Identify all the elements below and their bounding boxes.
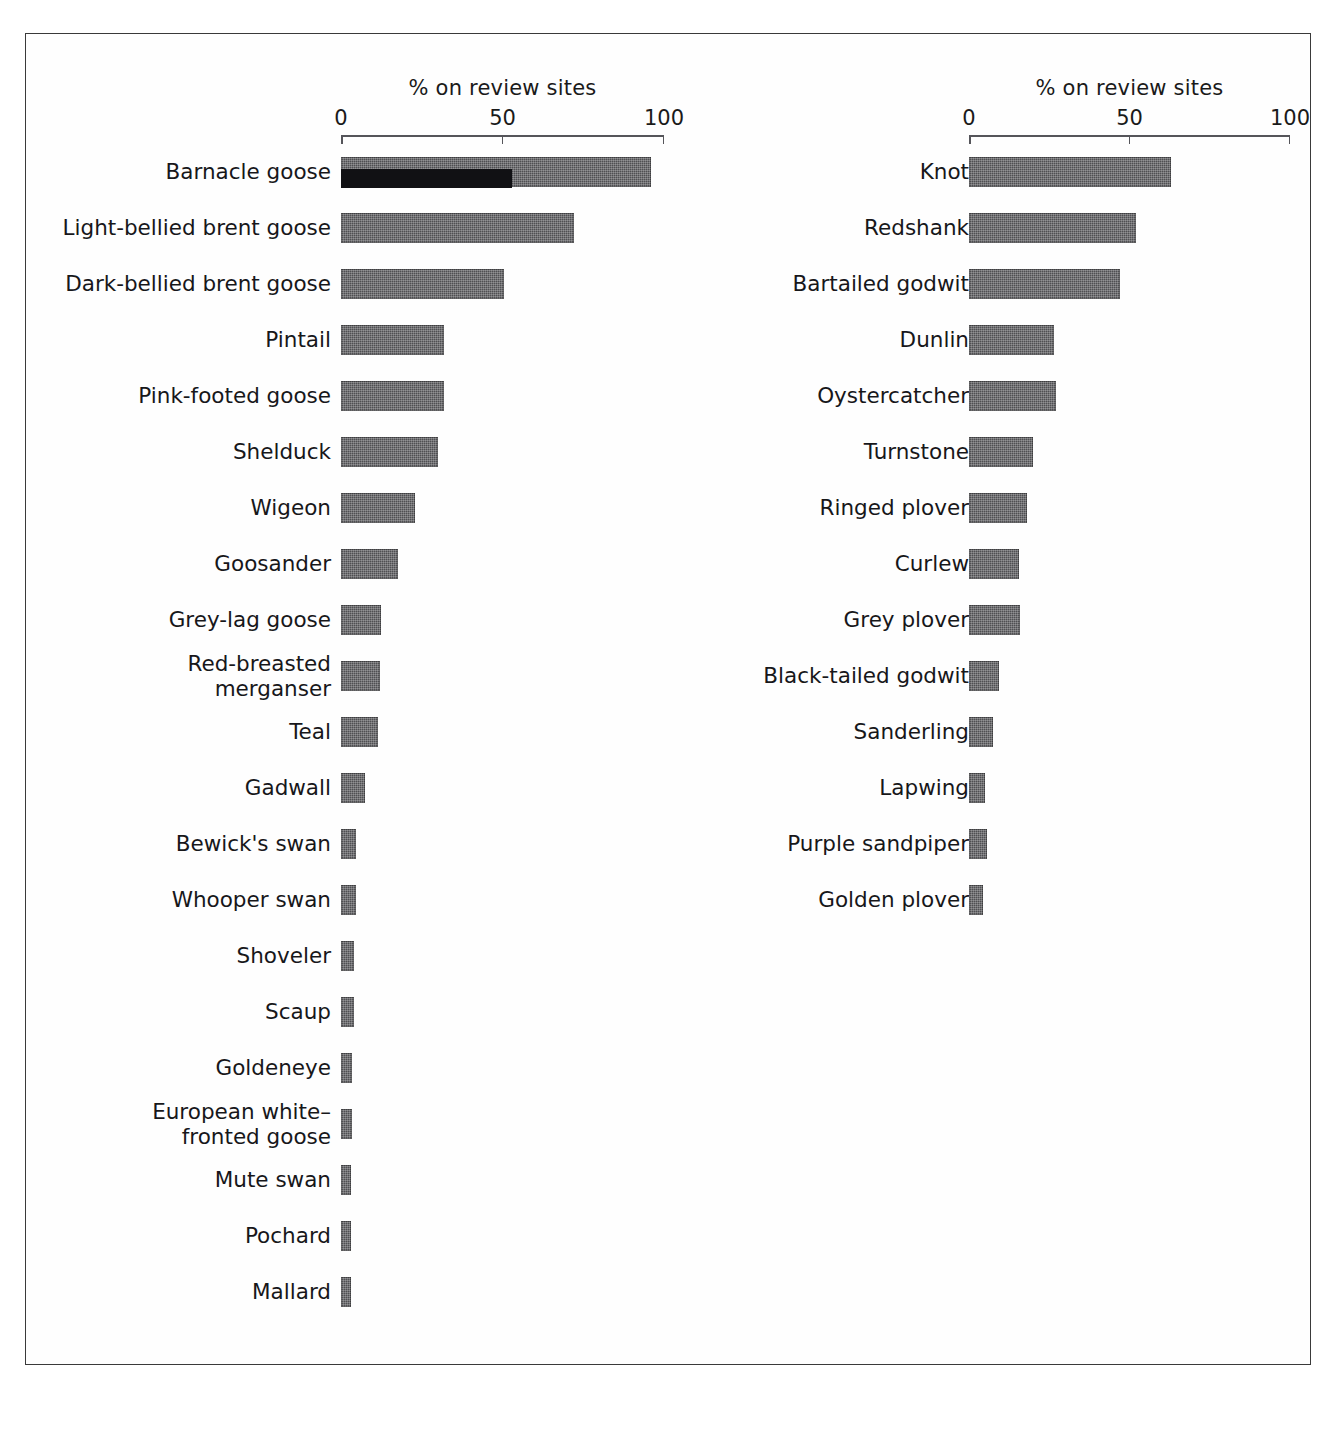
bar-track xyxy=(341,717,664,747)
bar-row: Pink-footed goose xyxy=(26,368,686,424)
chart-panel-wildfowl: % on review sites 050100 Barnacle gooseL… xyxy=(26,34,686,1364)
bar-row: Light-bellied brent goose xyxy=(26,200,686,256)
bar-track xyxy=(341,1165,664,1195)
bar-row: Redshank xyxy=(686,200,1312,256)
axis-tick-label: 100 xyxy=(1270,106,1310,130)
bar-category-label: Pintail xyxy=(56,327,331,352)
bar xyxy=(341,773,365,803)
bar-category-label: Wigeon xyxy=(56,495,331,520)
bar-category-label: Bartailed godwit xyxy=(696,271,969,296)
bar xyxy=(969,437,1033,467)
axis-tick-50-right xyxy=(1129,135,1131,144)
bar-category-label: Grey plover xyxy=(696,607,969,632)
bar-track xyxy=(969,661,1290,691)
bar-track xyxy=(341,1053,664,1083)
chart-page-frame: % on review sites 050100 Barnacle gooseL… xyxy=(25,33,1311,1365)
axis-header-left: % on review sites 050100 xyxy=(341,34,664,144)
bar-category-label: Purple sandpiper xyxy=(696,831,969,856)
bar-track xyxy=(969,605,1290,635)
bar-category-label: Black-tailed godwit xyxy=(696,663,969,688)
bar-category-label: Shelduck xyxy=(56,439,331,464)
bar-track xyxy=(341,1221,664,1251)
bar-row: Barnacle goose xyxy=(26,144,686,200)
bar xyxy=(341,885,356,915)
bar-category-label: Oystercatcher xyxy=(696,383,969,408)
bar xyxy=(341,213,574,243)
bar-row: Goldeneye xyxy=(26,1040,686,1096)
bar-row: Bewick's swan xyxy=(26,816,686,872)
bar-row: Knot xyxy=(686,144,1312,200)
bar-track xyxy=(969,493,1290,523)
bar-row: Pintail xyxy=(26,312,686,368)
axis-tick-label: 50 xyxy=(1116,106,1143,130)
bar-row: Mallard xyxy=(26,1264,686,1320)
bar-category-label: Goosander xyxy=(56,551,331,576)
bar-row: Red-breasted merganser xyxy=(26,648,686,704)
axis-tick-0-left xyxy=(341,135,343,144)
bar-category-label: Turnstone xyxy=(696,439,969,464)
bar xyxy=(341,1109,352,1139)
bar-rows-right: KnotRedshankBartailed godwitDunlinOyster… xyxy=(686,144,1312,928)
bar-row: European white– fronted goose xyxy=(26,1096,686,1152)
axis-tick-0-right xyxy=(969,135,971,144)
bar xyxy=(341,1221,351,1251)
bar-track xyxy=(969,717,1290,747)
bar-row: Whooper swan xyxy=(26,872,686,928)
bar xyxy=(341,941,354,971)
bar-row: Lapwing xyxy=(686,760,1312,816)
bar xyxy=(341,325,444,355)
bar-track xyxy=(341,997,664,1027)
bar-category-label: Gadwall xyxy=(56,775,331,800)
bar-track xyxy=(969,829,1290,859)
bar xyxy=(341,549,398,579)
bar xyxy=(969,269,1120,299)
bar-category-label: Mallard xyxy=(56,1279,331,1304)
bar-category-label: Dunlin xyxy=(696,327,969,352)
bar-category-label: Pink-footed goose xyxy=(56,383,331,408)
bar-rows-left: Barnacle gooseLight-bellied brent gooseD… xyxy=(26,144,686,1320)
bar xyxy=(341,1165,351,1195)
bar-row: Golden plover xyxy=(686,872,1312,928)
axis-tick-label: 0 xyxy=(962,106,975,130)
bar-category-label: Barnacle goose xyxy=(56,159,331,184)
axis-tick-label: 0 xyxy=(334,106,347,130)
axis-tick-50-left xyxy=(502,135,504,144)
bar-row: Teal xyxy=(26,704,686,760)
bar xyxy=(969,773,985,803)
bar-category-label: Whooper swan xyxy=(56,887,331,912)
bar-track xyxy=(341,381,664,411)
bar-track xyxy=(969,157,1290,187)
bar-category-label: Knot xyxy=(696,159,969,184)
bar xyxy=(341,661,380,691)
bar-overprint xyxy=(341,169,512,188)
bar-row: Pochard xyxy=(26,1208,686,1264)
bar xyxy=(341,381,444,411)
bar xyxy=(969,829,987,859)
bar-category-label: Bewick's swan xyxy=(56,831,331,856)
bar xyxy=(969,493,1027,523)
bar-row: Grey plover xyxy=(686,592,1312,648)
axis-tick-labels-right: 050100 xyxy=(969,106,1290,130)
bar-category-label: Sanderling xyxy=(696,719,969,744)
bar xyxy=(341,997,354,1027)
bar-category-label: Mute swan xyxy=(56,1167,331,1192)
bar-track xyxy=(969,549,1290,579)
bar xyxy=(341,1277,351,1307)
bar-track xyxy=(341,829,664,859)
bar-track xyxy=(341,213,664,243)
bar-row: Turnstone xyxy=(686,424,1312,480)
bar xyxy=(341,605,381,635)
bar-category-label: Golden plover xyxy=(696,887,969,912)
bar-category-label: Lapwing xyxy=(696,775,969,800)
bar-track xyxy=(341,773,664,803)
bar-category-label: European white– fronted goose xyxy=(56,1099,331,1150)
bar xyxy=(969,157,1171,187)
bar-category-label: Shoveler xyxy=(56,943,331,968)
bar-category-label: Teal xyxy=(56,719,331,744)
bar xyxy=(341,493,415,523)
bar-track xyxy=(969,325,1290,355)
bar-track xyxy=(341,661,664,691)
bar-row: Black-tailed godwit xyxy=(686,648,1312,704)
bar xyxy=(341,437,438,467)
bar-track xyxy=(969,885,1290,915)
